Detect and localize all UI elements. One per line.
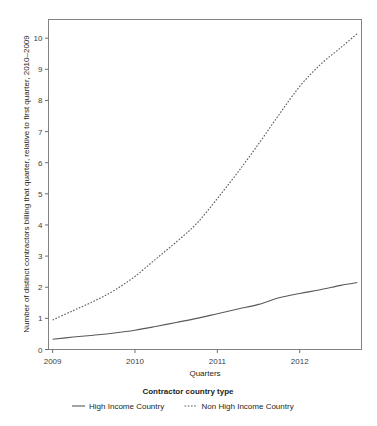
y-tick-label: 8 — [38, 96, 43, 105]
chart-figure: 012345678910 2009201020112012 Number of … — [0, 0, 377, 426]
y-tick-label: 6 — [38, 159, 43, 168]
x-axis-title: Quarters — [189, 369, 220, 378]
y-axis-title: Number of distinct contractors billing t… — [22, 35, 31, 333]
legend-entry-label: High Income Country — [89, 402, 164, 411]
legend-title: Contractor country type — [142, 387, 234, 396]
legend-group: High Income CountryNon High Income Count… — [72, 402, 294, 411]
x-tick-label: 2010 — [126, 357, 144, 366]
y-tick-label: 7 — [38, 128, 43, 137]
x-tick-label: 2012 — [291, 357, 309, 366]
x-tick-label: 2009 — [44, 357, 62, 366]
line-chart-svg: 012345678910 2009201020112012 Number of … — [0, 0, 377, 426]
y-tick-label: 4 — [38, 221, 43, 230]
y-tick-label: 5 — [38, 190, 43, 199]
plot-frame — [49, 20, 362, 350]
y-tick-label: 0 — [38, 346, 43, 355]
y-tick-label: 10 — [34, 34, 43, 43]
x-tick-label: 2011 — [209, 357, 227, 366]
y-tick-label: 1 — [38, 314, 43, 323]
x-axis-ticks: 2009201020112012 — [44, 350, 309, 366]
series-line-dotted — [53, 34, 358, 320]
legend-entry-label: Non High Income Country — [202, 402, 294, 411]
data-series-group — [53, 34, 358, 340]
y-tick-label: 3 — [38, 252, 43, 261]
series-line-solid — [53, 283, 358, 340]
y-tick-label: 2 — [38, 283, 43, 292]
y-tick-label: 9 — [38, 65, 43, 74]
y-axis-ticks: 012345678910 — [34, 34, 49, 354]
